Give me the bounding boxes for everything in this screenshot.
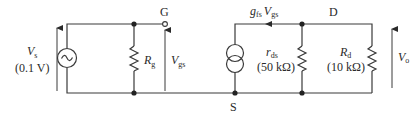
transconductance-label: gfsVgs bbox=[250, 4, 278, 19]
rds-label: rds bbox=[266, 45, 278, 60]
rd-label: Rd bbox=[339, 45, 351, 60]
junction-node bbox=[299, 90, 304, 95]
rds-value: (50 kΩ) bbox=[257, 60, 295, 74]
vo-label: Vo bbox=[398, 50, 409, 65]
gate-label: G bbox=[160, 5, 169, 19]
circuit-diagram: Vs (0.1 V) Rg G Vgs S gfsVgs rds (50 kΩ)… bbox=[0, 0, 418, 114]
vs-value: (0.1 V) bbox=[15, 61, 49, 75]
top-output-wire bbox=[235, 24, 372, 46]
input-loop-wires bbox=[67, 24, 372, 93]
drain-label: D bbox=[329, 5, 338, 19]
current-direction-arrow-icon bbox=[265, 21, 272, 27]
top-input-wire bbox=[67, 24, 165, 48]
drain-load-resistor bbox=[368, 46, 376, 93]
gate-terminal bbox=[163, 22, 168, 27]
drain-resistance bbox=[298, 21, 306, 95]
junction-node bbox=[131, 21, 136, 26]
dependent-current-source bbox=[227, 45, 244, 96]
vs-label: Vs bbox=[27, 44, 37, 60]
rd-value: (10 kΩ) bbox=[327, 60, 365, 74]
source-node bbox=[232, 90, 237, 95]
gate-resistor bbox=[130, 21, 138, 95]
junction-node bbox=[131, 90, 136, 95]
resistor-zigzag-icon bbox=[130, 46, 138, 71]
vgs-label: Vgs bbox=[171, 53, 185, 69]
rg-label: Rg bbox=[143, 53, 155, 69]
resistor-zigzag-icon bbox=[368, 46, 376, 71]
drain-node bbox=[299, 21, 304, 26]
source-label: S bbox=[230, 100, 237, 114]
ac-voltage-source bbox=[58, 49, 77, 68]
current-source-icon bbox=[227, 45, 244, 62]
resistor-zigzag-icon bbox=[298, 46, 306, 71]
